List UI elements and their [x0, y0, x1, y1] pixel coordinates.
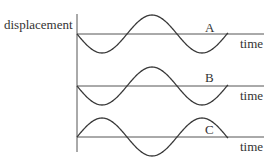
wave-b: Btime	[77, 67, 264, 105]
x-axis-label: time	[240, 139, 263, 154]
x-axis-label: time	[240, 36, 263, 51]
wave-a: Atime	[77, 15, 264, 53]
wave-label: C	[205, 122, 214, 137]
y-axis-label: displacement	[4, 17, 73, 32]
wave-c: Ctime	[77, 118, 264, 156]
x-axis-label: time	[240, 88, 263, 103]
wave-label: B	[205, 70, 214, 85]
wave-group: AtimeBtimeCtime	[77, 15, 264, 156]
wave-diagram: displacement AtimeBtimeCtime	[0, 0, 272, 160]
wave-label: A	[205, 20, 215, 35]
